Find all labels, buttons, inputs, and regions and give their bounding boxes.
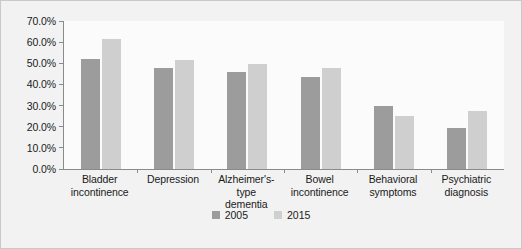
y-axis: 70.0%60.0%50.0%40.0%30.0%20.0%10.0%0.0%: [1, 21, 63, 169]
x-axis-label-line: Alzheimer's-type: [210, 173, 283, 198]
bar-2005-5: [447, 128, 466, 169]
x-axis-label-line: Psychiatric: [430, 173, 503, 186]
bar-group: [64, 21, 137, 169]
legend-item-2005[interactable]: 2005: [212, 209, 248, 221]
y-axis-tick-label: 0.0%: [32, 163, 56, 175]
bar-2015-3: [322, 68, 341, 169]
x-axis-label-5: Psychiatricdiagnosis: [430, 173, 503, 198]
bar-group: [137, 21, 210, 169]
y-axis-tick: 50.0%: [27, 57, 63, 69]
x-axis-label-4: Behavioralsymptoms: [356, 173, 429, 198]
bar-2015-2: [248, 64, 267, 169]
x-axis-label-line: diagnosis: [430, 186, 503, 199]
y-axis-tick: 40.0%: [27, 78, 63, 90]
legend-label: 2015: [287, 209, 310, 221]
legend-swatch-icon: [212, 211, 220, 219]
x-axis-labels: BladderincontinenceDepressionAlzheimer's…: [63, 173, 503, 205]
y-axis-tick: 20.0%: [27, 121, 63, 133]
bar-2005-4: [374, 106, 393, 169]
bar-2005-3: [301, 77, 320, 169]
bar-2015-0: [102, 39, 121, 169]
legend-label: 2005: [225, 209, 248, 221]
y-axis-tick-label: 30.0%: [27, 100, 56, 112]
bar-2015-5: [468, 111, 487, 169]
legend-item-2015[interactable]: 2015: [274, 209, 310, 221]
bar-2005-0: [81, 59, 100, 169]
x-axis-label-2: Alzheimer's-typedementia: [210, 173, 283, 211]
bar-2015-4: [395, 116, 414, 169]
bar-2005-1: [154, 68, 173, 169]
y-axis-tick-label: 60.0%: [27, 36, 56, 48]
plot-inner: [64, 21, 504, 169]
x-axis-label-0: Bladderincontinence: [63, 173, 136, 198]
bar-2015-1: [175, 60, 194, 169]
chart-legend: 20052015: [1, 209, 521, 221]
bar-group: [211, 21, 284, 169]
x-axis-label-line: symptoms: [356, 186, 429, 199]
y-axis-tick-label: 20.0%: [27, 121, 56, 133]
x-axis-label-line: Bladder: [63, 173, 136, 186]
y-axis-tick-label: 70.0%: [27, 15, 56, 27]
bar-chart-card: 70.0%60.0%50.0%40.0%30.0%20.0%10.0%0.0% …: [0, 0, 522, 249]
plot-area: [63, 21, 504, 170]
bar-group: [431, 21, 504, 169]
bar-group: [284, 21, 357, 169]
y-axis-tick: 0.0%: [32, 163, 63, 175]
bar-group: [357, 21, 430, 169]
x-axis-label-line: Bowel: [283, 173, 356, 186]
x-axis-label-line: incontinence: [283, 186, 356, 199]
x-axis-label-3: Bowelincontinence: [283, 173, 356, 198]
legend-swatch-icon: [274, 211, 282, 219]
bar-2005-2: [227, 72, 246, 169]
y-axis-tick: 60.0%: [27, 36, 63, 48]
x-axis-label-1: Depression: [136, 173, 209, 186]
y-axis-tick: 30.0%: [27, 100, 63, 112]
x-axis-label-line: Behavioral: [356, 173, 429, 186]
x-axis-label-line: incontinence: [63, 186, 136, 199]
y-axis-tick-label: 50.0%: [27, 57, 56, 69]
y-axis-tick-label: 10.0%: [27, 142, 56, 154]
y-axis-tick: 10.0%: [27, 142, 63, 154]
y-axis-tick-label: 40.0%: [27, 78, 56, 90]
y-axis-tick: 70.0%: [27, 15, 63, 27]
x-axis-label-line: Depression: [136, 173, 209, 186]
